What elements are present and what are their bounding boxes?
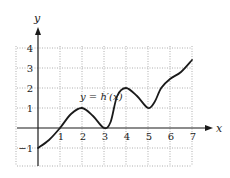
x-tick-label: 3 [102,131,108,142]
y-tick-label: 4 [27,43,33,54]
x-tick-label: 1 [58,131,64,142]
y-axis-arrow-icon [35,27,41,35]
curve-label: y = h′(x) [79,91,123,102]
x-tick-label: 7 [190,131,196,142]
x-tick-label: 4 [124,131,130,142]
chart: x y 1234567−11234 y = h′(x) [0,0,230,178]
y-tick-label: 1 [27,103,33,114]
y-tick-label: −1 [18,143,33,154]
grid-lines [16,46,192,166]
x-axis-arrow-icon [205,125,213,131]
x-tick-label: 6 [168,131,174,142]
y-axis-label: y [33,12,41,25]
x-tick-label: 5 [146,131,152,142]
y-tick-label: 2 [27,83,33,94]
x-axis-label: x [216,122,223,135]
x-tick-label: 2 [80,131,86,142]
y-tick-label: 3 [27,63,33,74]
